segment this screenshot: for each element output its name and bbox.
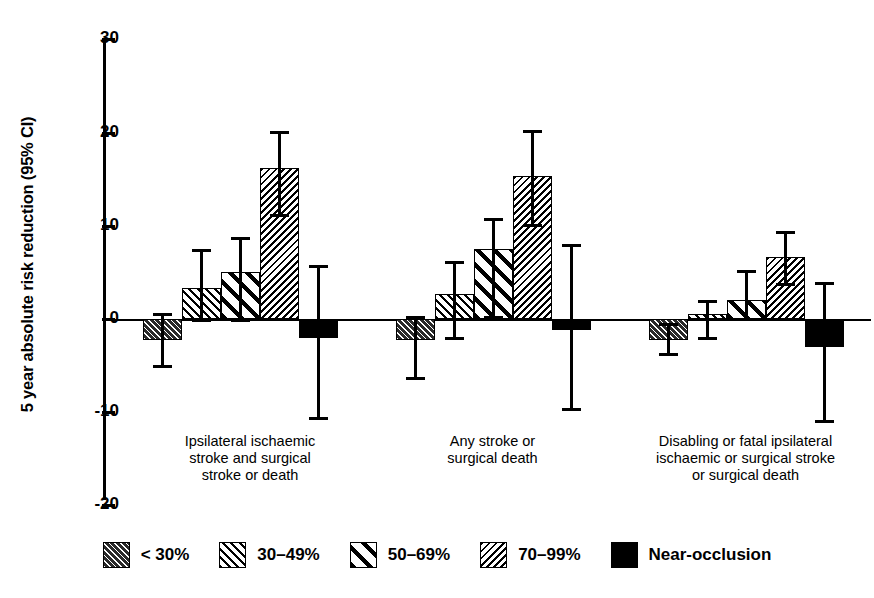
y-axis-title: 5 year absolute risk reduction (95% CI) (18, 50, 37, 480)
legend-label: < 30% (141, 545, 190, 565)
legend-swatch-icon (350, 542, 377, 568)
error-bar-cap (815, 282, 834, 285)
error-bar-cap (484, 218, 503, 221)
error-bar-cap (562, 244, 581, 247)
error-bar-cap (309, 417, 328, 420)
legend-swatch-icon (611, 542, 638, 568)
legend-item-4[interactable]: 70–99% (480, 542, 580, 568)
error-bar (239, 237, 242, 322)
error-bar-cap (523, 224, 542, 227)
error-bar (414, 316, 417, 379)
error-bar-cap (562, 408, 581, 411)
error-bar-cap (659, 323, 678, 326)
legend-swatch-icon (480, 542, 507, 568)
error-bar-cap (445, 261, 464, 264)
group-caption-3: Disabling or fatal ipsilateral ischaemic… (618, 433, 873, 484)
error-bar-cap (270, 131, 289, 134)
error-bar (161, 313, 164, 368)
error-bar-cap (192, 249, 211, 252)
error-bar (570, 244, 573, 411)
error-bar (278, 131, 281, 218)
risk-reduction-bar-chart: 5 year absolute risk reduction (95% CI) … (0, 0, 874, 598)
error-bar-cap (698, 300, 717, 303)
error-bar-cap (153, 313, 172, 316)
y-axis-line (103, 40, 106, 500)
legend-item-1[interactable]: < 30% (103, 542, 190, 568)
legend-label: 70–99% (518, 545, 580, 565)
legend-label: 30–49% (257, 545, 319, 565)
error-bar (784, 231, 787, 286)
legend-item-3[interactable]: 50–69% (350, 542, 450, 568)
legend: < 30%30–49%50–69%70–99%Near-occlusion (0, 542, 874, 568)
y-tick-label: 30 (59, 28, 119, 48)
error-bar-cap (231, 319, 250, 322)
error-bar-cap (406, 316, 425, 319)
error-bar-cap (776, 283, 795, 286)
y-tick-label: 20 (59, 122, 119, 142)
error-bar-cap (484, 316, 503, 319)
error-bar-cap (270, 214, 289, 217)
error-bar-cap (698, 337, 717, 340)
error-bar-cap (737, 318, 756, 321)
error-bar-cap (523, 130, 542, 133)
error-bar-cap (153, 365, 172, 368)
legend-item-2[interactable]: 30–49% (219, 542, 319, 568)
error-bar-cap (231, 237, 250, 240)
error-bar (453, 261, 456, 340)
error-bar (200, 249, 203, 322)
error-bar-cap (406, 377, 425, 380)
error-bar (745, 270, 748, 321)
legend-label: Near-occlusion (649, 545, 772, 565)
error-bar-cap (659, 353, 678, 356)
group-caption-2: Any stroke or surgical death (385, 433, 600, 467)
group-caption-1: Ipsilateral ischaemic stroke and surgica… (135, 433, 365, 484)
error-bar-cap (445, 337, 464, 340)
error-bar-cap (737, 270, 756, 273)
error-bar (317, 265, 320, 420)
y-tick-label: 10 (59, 215, 119, 235)
legend-swatch-icon (219, 542, 246, 568)
error-bar (667, 323, 670, 357)
error-bar (531, 130, 534, 227)
error-bar-cap (815, 420, 834, 423)
error-bar-cap (192, 319, 211, 322)
y-tick-label: -20 (59, 494, 119, 514)
legend-label: 50–69% (388, 545, 450, 565)
error-bar (706, 300, 709, 340)
y-tick-label: -10 (59, 401, 119, 421)
error-bar-cap (309, 265, 328, 268)
legend-item-5[interactable]: Near-occlusion (611, 542, 772, 568)
y-tick-label: 0 (59, 308, 119, 328)
legend-swatch-icon (103, 542, 130, 568)
error-bar-cap (776, 231, 795, 234)
error-bar (492, 218, 495, 319)
error-bar (823, 282, 826, 424)
